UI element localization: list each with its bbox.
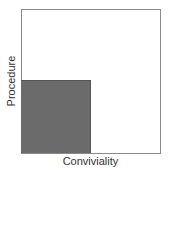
x-axis-label: Conviviality (0, 155, 169, 167)
shaded-region (21, 80, 91, 153)
y-axis-label: Procedure (5, 56, 17, 107)
